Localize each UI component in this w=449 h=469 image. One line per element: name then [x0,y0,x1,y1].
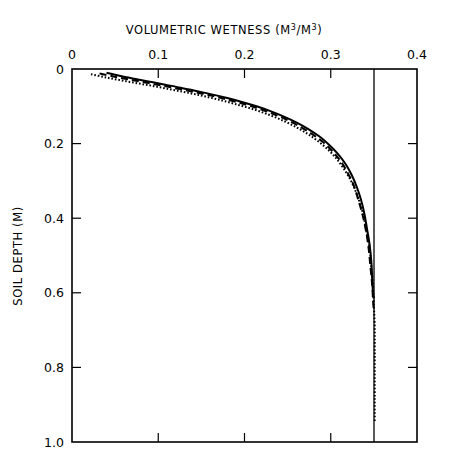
chart-title-mid: /M [296,23,311,37]
x-tick-label-4: 0.4 [407,47,427,62]
y-axis-title-group: SOIL DEPTH (M) [11,206,25,306]
profile-dashed [100,73,374,311]
x-tick-label-1: 0.1 [148,47,168,62]
y-axis-tick-labels: 00.20.40.60.81.0 [44,62,64,450]
chart-title: VOLUMETRIC WETNESS (M3/M3) [126,23,323,37]
profile-solid [107,73,374,299]
y-axis-title: SOIL DEPTH (M) [11,206,25,306]
chart-title-tail: ) [317,23,322,37]
axis-tick-marks [72,69,417,442]
x-tick-label-3: 0.3 [321,47,341,62]
x-tick-label-0: 0 [68,47,76,62]
soil-moisture-retention-chart: VOLUMETRIC WETNESS (M3/M3) SOIL DEPTH (M… [0,0,449,469]
chart-title-main: VOLUMETRIC WETNESS (M [126,23,291,37]
y-tick-label-0: 0 [56,62,64,77]
profile-dotted [91,74,375,421]
plot-frame [72,69,417,442]
data-curves [91,73,375,422]
y-tick-label-5: 1.0 [44,435,64,450]
x-tick-label-2: 0.2 [235,47,255,62]
y-tick-label-4: 0.8 [44,360,64,375]
x-axis-tick-labels: 00.10.20.30.4 [68,47,427,62]
y-tick-label-2: 0.4 [44,211,64,226]
y-tick-label-3: 0.6 [44,285,64,300]
chart-title-group: VOLUMETRIC WETNESS (M3/M3) [126,23,323,37]
y-tick-label-1: 0.2 [44,136,64,151]
